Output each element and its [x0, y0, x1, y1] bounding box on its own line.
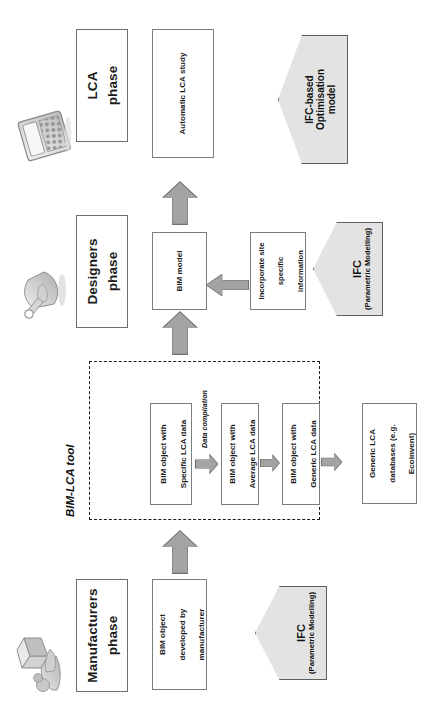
box-line1: BIM object: [158, 614, 167, 655]
data-compilation-label: Data compilation: [200, 390, 209, 448]
bim-lca-tool-label: BIM-LCA tool: [64, 445, 76, 517]
box-specific-lca: BIM object with Specific LCA data: [150, 403, 192, 505]
arrow-manufacturer-to-tool: [163, 531, 196, 572]
phase-title-line2: phase: [105, 66, 120, 106]
box-line2: databases (e.g.: [388, 424, 397, 482]
phase-title-line2: phase: [105, 616, 120, 656]
calculator-icon: [14, 106, 72, 164]
pentagon-subtitle: (Parametric Modelling): [363, 223, 372, 315]
arrow-generic-to-databases: [322, 454, 342, 471]
box-bim-model: BIM model: [152, 232, 207, 310]
box-line1: BIM object with: [228, 424, 237, 483]
box-manufacturer-object: BIM object developed by manufacturer: [152, 579, 207, 690]
arrow-bim-model-to-lca: [163, 182, 196, 223]
arrow-siteinfo-to-bim-model: [207, 275, 249, 296]
box-line2: Average LCA data: [248, 419, 257, 488]
phase-title-lca: LCA phase: [76, 29, 128, 142]
pentagon-line3: model: [326, 36, 337, 163]
pentagon-ifc-manufacturers: IFC (Parametric Modelling): [255, 586, 327, 680]
pentagon-title: IFC: [351, 223, 363, 315]
box-line2: Generic LCA data: [309, 420, 318, 488]
box-line2: specific information: [276, 250, 305, 292]
arrow-tool-to-bim-model: [163, 312, 196, 353]
box-line1: BIM model: [175, 251, 185, 292]
hand-with-pencil-icon: [14, 264, 72, 322]
box-generic-lca-databases: Generic LCA databases (e.g. Ecoinvent): [362, 403, 417, 504]
pentagon-title: IFC: [295, 587, 307, 679]
box-average-lca: BIM object with Average LCA data: [221, 403, 259, 505]
box-line1: BIM object with: [159, 424, 168, 483]
box-site-specific-info: Incorporate site specific information: [250, 232, 306, 310]
person-with-box-icon: [12, 634, 70, 696]
box-line3: manufacturer: [197, 609, 206, 661]
phase-title-line1: Designers: [85, 238, 100, 304]
phase-title-line1: Manufacturers: [85, 588, 100, 682]
pentagon-ifc-designers: IFC (Parametric Modelling): [313, 222, 383, 316]
box-line1: Incorporate site: [257, 243, 266, 300]
pentagon-line2: Optimisation: [315, 36, 326, 163]
diagram-canvas: Manufacturers phase BIM object developed…: [0, 0, 426, 720]
pentagon-subtitle: (Parametric Modelling): [307, 587, 316, 679]
box-line2: Specific LCA data: [179, 420, 188, 489]
box-line3: Ecoinvent): [407, 433, 416, 474]
box-generic-lca: BIM object with Generic LCA data: [282, 403, 320, 505]
box-line2: developed by: [178, 609, 187, 661]
box-automatic-lca-study: Automatic LCA study: [152, 29, 214, 158]
box-line1: Generic LCA: [368, 429, 377, 478]
pentagon-ifc-optimisation: IFC-based Optimisation model: [278, 35, 348, 164]
phase-title-line1: LCA: [85, 71, 100, 99]
phase-title-line2: phase: [105, 252, 120, 292]
phase-title-designers: Designers phase: [76, 215, 128, 328]
box-line1: Automatic LCA study: [178, 53, 188, 135]
phase-title-manufacturers: Manufacturers phase: [76, 579, 128, 692]
pentagon-title: IFC-based: [304, 36, 315, 163]
box-line1: BIM object with: [289, 424, 298, 483]
